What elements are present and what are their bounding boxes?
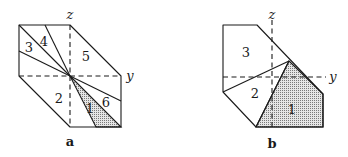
figure-a-region-label-6: 6: [102, 95, 110, 110]
figure-a-line-4-5: [45, 25, 70, 76]
figure-a-region-1-shaded: [70, 76, 121, 127]
figure-a-region-label-1: 1: [86, 101, 94, 116]
figure-b-caption: b: [267, 136, 276, 151]
figure-a-region-label-3: 3: [25, 40, 33, 55]
diagram-canvas: z y 1 2 3 4 5 6 a z y 1 2 3 b: [0, 0, 348, 157]
figure-b-z-label: z: [268, 7, 276, 22]
figure-b: z y 1 2 3 b: [223, 7, 337, 151]
figure-a-y-label: y: [125, 68, 134, 83]
figure-a: z y 1 2 3 4 5 6 a: [19, 7, 134, 149]
figure-b-region-label-2: 2: [251, 86, 259, 101]
figure-a-z-label: z: [66, 7, 74, 22]
figure-a-region-label-2: 2: [55, 91, 63, 106]
figure-a-caption: a: [66, 134, 75, 149]
figure-b-y-label: y: [328, 69, 337, 84]
figure-b-region-1-shaded: [256, 61, 323, 127]
figure-b-region-label-3: 3: [242, 45, 250, 60]
figure-b-region-label-1: 1: [288, 102, 296, 117]
figure-a-region-label-5: 5: [82, 49, 90, 64]
figure-a-region-label-4: 4: [40, 34, 48, 49]
